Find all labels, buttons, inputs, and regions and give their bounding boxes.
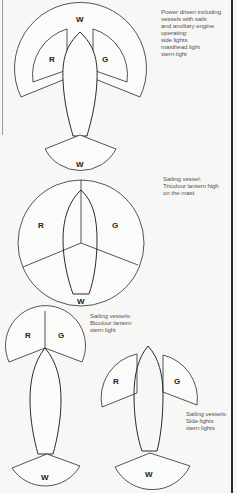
starboard-label: G [174,377,180,386]
caption-line: Bicolour lantern [90,319,131,326]
port-label: R [38,221,44,230]
navigation-lights-page: W R G W R G W R G W [0,0,237,493]
starboard-label: G [102,55,108,64]
caption-line: operating: [161,29,221,36]
caption-line: stern light [90,326,131,333]
figure-tricolour: R G W [18,180,144,306]
caption-line: Sailing vessels: [90,312,131,319]
caption-line: on the mast [163,189,219,196]
hull [134,346,163,451]
starboard-label: G [112,221,118,230]
caption-tricolour: Sailing vessel: Tricolour lantern high o… [163,175,219,196]
caption-line: stern light [161,50,221,57]
caption-bicolour: Sailing vessels: Bicolour lantern stern … [90,312,131,333]
caption-line: stern lights [186,424,227,431]
port-label: R [25,331,31,340]
caption-line: Tricolour lantern high [163,182,219,189]
starboard-label: G [58,331,64,340]
figure-power-driven: W R G W [15,2,147,170]
caption-side-lights: Sailing vessels: Side lights stern light… [186,410,227,431]
caption-line: masthead light [161,43,221,50]
stern-label: W [41,473,49,482]
caption-line: side lights [161,36,221,43]
masthead-label: W [76,15,84,24]
caption-power-driven: Power driven including vessels with sail… [161,8,221,57]
caption-line: Sailing vessels: [186,410,227,417]
port-light-sector [101,354,137,407]
stern-label: W [145,470,153,479]
caption-line: Power driven including [161,8,221,15]
hull [63,32,97,136]
caption-line: and anxiliary engine [161,22,221,29]
figure-side-lights: R G W [101,346,197,490]
caption-line: Side lights [186,417,227,424]
hull [30,348,61,454]
stern-label: W [76,160,84,169]
port-label: R [49,55,55,64]
caption-line: vessels with sails [161,15,221,22]
caption-line: Sailing vessel: [163,175,219,182]
stern-label: W [77,297,85,306]
figure-bicolour: R G W [5,306,85,486]
port-label: R [113,377,119,386]
